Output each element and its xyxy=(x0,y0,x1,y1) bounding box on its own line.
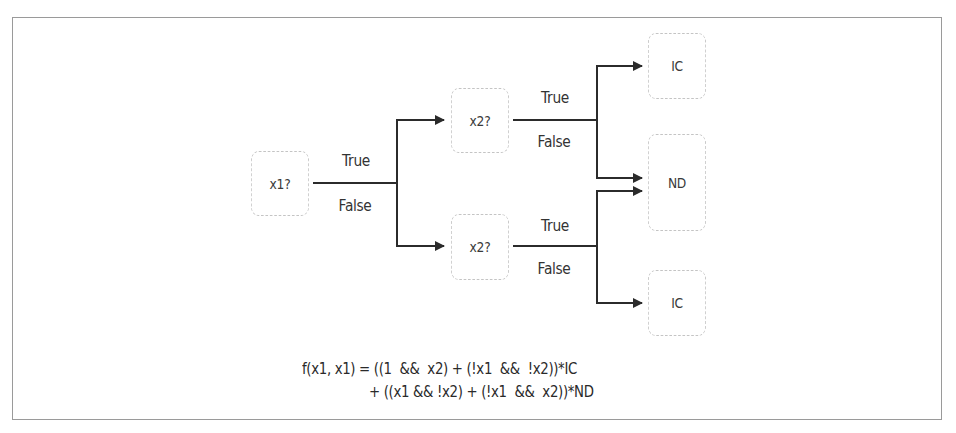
edge-label-x1-false: False xyxy=(339,196,372,215)
node-ic-top: IC xyxy=(648,33,706,99)
edge-x1-true xyxy=(397,120,444,183)
edge-x1-false xyxy=(397,183,444,246)
node-x1-label: x1? xyxy=(270,176,291,192)
node-x2-top-label: x2? xyxy=(470,113,491,129)
edge-label-x2bottom-false: False xyxy=(538,259,571,278)
node-ic-bottom-label: IC xyxy=(671,295,683,311)
node-nd-label: ND xyxy=(668,175,686,191)
node-x2-bottom-label: x2? xyxy=(470,239,491,255)
edge-x2top-false xyxy=(597,120,642,178)
edge-x2bottom-true xyxy=(597,191,642,246)
edge-label-x1-true: True xyxy=(342,151,370,170)
edge-label-x2top-false: False xyxy=(538,132,571,151)
node-ic-top-label: IC xyxy=(671,58,683,74)
edge-x2top-true xyxy=(597,66,642,120)
edge-x2bottom-false xyxy=(597,246,642,303)
edge-label-x2bottom-true: True xyxy=(541,216,569,235)
node-nd: ND xyxy=(648,134,706,231)
formula-line-1: f(x1, x1) = ((1 && x2) + (!x1 && !x2))*I… xyxy=(302,360,577,378)
node-ic-bottom: IC xyxy=(648,270,706,336)
node-x2-top: x2? xyxy=(451,88,509,153)
node-x2-bottom: x2? xyxy=(451,214,509,280)
edge-label-x2top-true: True xyxy=(541,88,569,107)
formula-line-2: + ((x1 && !x2) + (!x1 && x2))*ND xyxy=(369,383,594,401)
node-x1: x1? xyxy=(251,151,309,216)
